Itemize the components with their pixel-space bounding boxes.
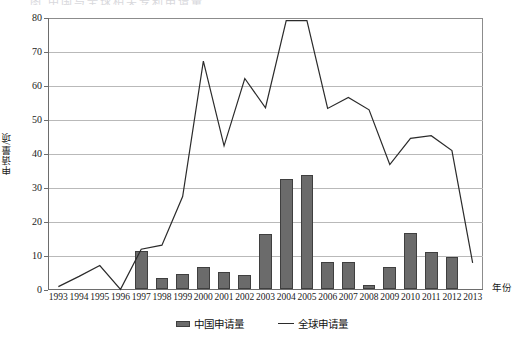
- legend-item-0[interactable]: 中国申请量: [176, 316, 244, 331]
- y-tick-label-10: 10: [20, 251, 42, 261]
- legend-item-label: 中国申请量: [194, 316, 244, 331]
- y-tick-label-0: 0: [20, 285, 42, 295]
- x-axis-title: 年份: [492, 280, 512, 294]
- chart-title-remnant: 图 中国与全球相关专利申请量: [30, 0, 490, 5]
- legend-bar-swatch-icon: [176, 321, 190, 327]
- legend-line-swatch-icon: [278, 323, 294, 324]
- legend-item-1[interactable]: 全球申请量: [278, 316, 348, 331]
- y-tick-mark-0: [44, 290, 48, 291]
- y-tick-label-70: 70: [20, 47, 42, 57]
- plot-area: [48, 18, 483, 290]
- global-applications-polyline: [58, 21, 472, 290]
- line-series-global: [48, 18, 483, 290]
- legend-item-label: 全球申请量: [298, 316, 348, 331]
- chart-legend: 中国申请量全球申请量: [0, 316, 524, 331]
- y-tick-label-30: 30: [20, 183, 42, 193]
- chart-container: 图 中国与全球相关专利申请量 申请量/项 01020304050607080 1…: [0, 0, 524, 340]
- y-tick-label-80: 80: [20, 13, 42, 23]
- y-axis-title: 申请量/项: [2, 132, 16, 175]
- y-tick-label-20: 20: [20, 217, 42, 227]
- y-tick-label-60: 60: [20, 81, 42, 91]
- y-tick-label-50: 50: [20, 115, 42, 125]
- y-tick-label-40: 40: [20, 149, 42, 159]
- x-tick-label-2013: 2013: [459, 292, 487, 303]
